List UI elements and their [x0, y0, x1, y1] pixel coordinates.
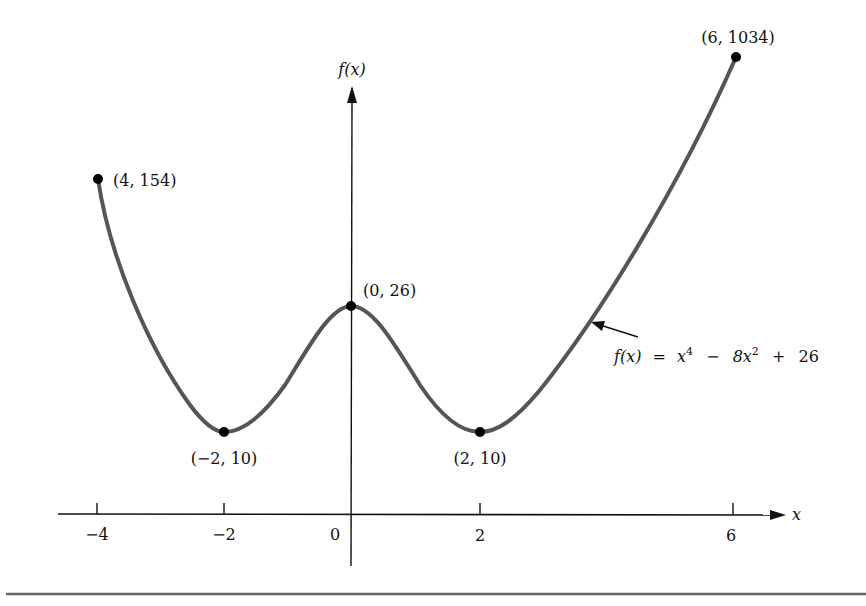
y-axis-label: f(x)	[337, 60, 365, 79]
equation-x: x	[677, 347, 686, 366]
x-axis-arrow-icon	[770, 510, 786, 520]
x-axis-label: x	[792, 505, 801, 524]
equation-const: 26	[798, 347, 818, 366]
equation-text: f(x) = x4 − 8x2 + 26	[613, 340, 819, 366]
tick-label-6: 6	[726, 526, 736, 545]
point-label-0: (0, 26)	[363, 281, 416, 300]
function-curve	[98, 57, 736, 432]
equation-eq: =	[653, 347, 666, 366]
point-m2	[219, 427, 229, 437]
tick-label-0: 0	[330, 525, 340, 544]
point-label-m4: (4, 154)	[113, 171, 176, 190]
equation-annotation: f(x) = x4 − 8x2 + 26	[591, 321, 819, 366]
tick-label-m2: −2	[212, 525, 236, 544]
equation-exp4: 4	[686, 345, 693, 358]
point-0	[346, 301, 356, 311]
equation-plus: +	[772, 347, 785, 366]
point-6	[731, 52, 741, 62]
point-label-m2: (−2, 10)	[191, 449, 258, 468]
y-axis: f(x)	[337, 60, 365, 566]
point-m4	[93, 174, 103, 184]
equation-lhs: f(x)	[613, 347, 641, 366]
point-2	[475, 427, 485, 437]
tick-label-2: 2	[475, 526, 485, 545]
equation-minus: −	[706, 347, 719, 366]
equation-exp2: 2	[752, 345, 759, 358]
point-label-2: (2, 10)	[453, 449, 506, 468]
annotation-arrow-icon	[591, 321, 605, 331]
tick-label-m4: −4	[85, 525, 109, 544]
function-plot: −4 −2 0 2 6 x f(x) (4, 154) (−2, 10) (0,…	[0, 0, 866, 606]
y-axis-arrow-icon	[347, 86, 357, 103]
equation-8x: 8x	[733, 347, 752, 366]
point-label-6: (6, 1034)	[701, 28, 775, 47]
x-axis: −4 −2 0 2 6 x	[58, 503, 801, 545]
